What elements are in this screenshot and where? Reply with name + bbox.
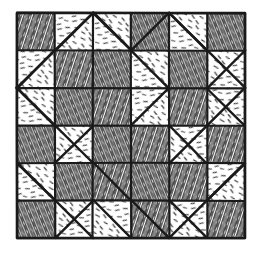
quilt-patch-r2-c2 — [93, 88, 131, 126]
quilt-patch-r4-c4 — [169, 163, 207, 201]
quilt-patch-r1-c1 — [55, 51, 93, 89]
quilt-patch-r5-c5 — [207, 201, 245, 239]
quilt-patch-r0-c0 — [17, 13, 55, 51]
quilt-diagram-canvas: Quilt Block Pattern Diagram — [0, 0, 258, 255]
seam-vertical-2 — [93, 13, 94, 238]
quilt-patch-r3-c2 — [93, 126, 131, 164]
quilt-patch-r1-c3 — [131, 51, 169, 89]
quilt-patch-r4-c3 — [131, 163, 169, 201]
quilt-patch-r3-c3 — [131, 126, 169, 164]
quilt-illustration — [0, 0, 258, 255]
quilt-patch-r1-c2 — [93, 51, 131, 89]
quilt-patch-r1-c4 — [169, 51, 207, 89]
quilt-patch-r4-c1 — [55, 163, 93, 201]
quilt-patch-r2-c1 — [55, 88, 93, 126]
quilt-patch-r5-c2 — [93, 200, 131, 238]
quilt-patch-r2-c3 — [131, 88, 169, 126]
quilt-patch-r3-c5 — [207, 126, 245, 164]
quilt-patch-r3-c0 — [17, 126, 55, 164]
quilt-patch-r2-c4 — [169, 88, 207, 126]
quilt-patch-r0-c5 — [207, 13, 245, 51]
quilt-patch-r5-c0 — [17, 201, 55, 239]
